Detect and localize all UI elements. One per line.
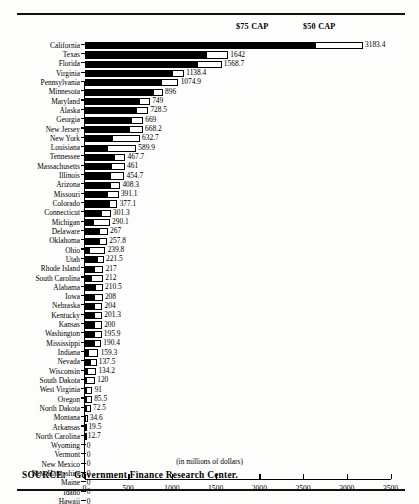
source-text: Government Finance Research Center. <box>74 470 238 480</box>
bar-row: South Carolina212 <box>0 274 419 283</box>
bar-row: Utah221.5 <box>0 255 419 264</box>
bar-row-label-wrap: Alabama <box>0 283 80 292</box>
bar-row: Iowa208 <box>0 292 419 301</box>
bar <box>85 349 99 356</box>
bar-category-label: Washington <box>0 329 80 338</box>
bar-value-label: 221.5 <box>106 255 123 262</box>
y-axis-tick <box>81 444 86 445</box>
bar-category-label: Colorado <box>0 199 80 208</box>
bar <box>85 340 102 347</box>
bar-row: North Dakota72.5 <box>0 404 419 413</box>
bar-row: Michigan290.1 <box>0 218 419 227</box>
bar-row: Kentucky201.3 <box>0 311 419 320</box>
bar <box>85 275 104 282</box>
bar-row-label-wrap: Nevada <box>0 358 80 367</box>
bar-segment-cap75 <box>85 284 96 291</box>
bar-value-label: 239.8 <box>108 246 125 253</box>
bar-category-label: Iowa <box>0 292 80 301</box>
bar-value-label: 377.1 <box>120 200 137 207</box>
bar-row: Virginia1138.4 <box>0 69 419 78</box>
bar-row-label-wrap: Montana <box>0 414 80 423</box>
bar <box>85 284 103 291</box>
bar-value-label: 749 <box>152 97 163 104</box>
bar-row-label-wrap: Missouri <box>0 190 80 199</box>
bar-category-label: Rhode Island <box>0 264 80 273</box>
bar-row-label-wrap: West Virginia <box>0 386 80 395</box>
bar-row-label-wrap: Nebraska <box>0 302 80 311</box>
bar <box>85 117 143 124</box>
bar <box>85 405 91 412</box>
bar-segment-cap75 <box>85 359 91 366</box>
bar-segment-cap75 <box>85 145 109 152</box>
bar-category-label: South Dakota <box>0 376 80 385</box>
bar-row: California3183.4 <box>0 41 419 50</box>
bar-category-label: North Carolina <box>0 432 80 441</box>
bar-segment-cap75 <box>85 126 130 133</box>
bar-row-label-wrap: North Carolina <box>0 432 80 441</box>
bar-category-label: Virginia <box>0 69 80 78</box>
bar-value-label: 632.7 <box>142 134 159 141</box>
bar-value-label: 200 <box>104 321 115 328</box>
bar-row-label-wrap: Illinois <box>0 171 80 180</box>
bar-segment-cap75 <box>85 377 88 384</box>
bar-value-label: 1074.9 <box>181 78 201 85</box>
bar-row-label-wrap: Arizona <box>0 181 80 190</box>
bar-category-label: Utah <box>0 255 80 264</box>
bar <box>85 377 95 384</box>
bar-segment-cap75 <box>85 294 96 301</box>
bar-row: West Virginia91 <box>0 386 419 395</box>
bar-category-label: Oklahoma <box>0 236 80 245</box>
bar-row: Alabama210.5 <box>0 283 419 292</box>
bar-segment-cap75 <box>85 275 93 282</box>
bar-segment-cap75 <box>85 321 95 328</box>
bar-segment-cap75 <box>85 163 113 170</box>
bar-category-label: Arizona <box>0 180 80 189</box>
bar-row-label-wrap: Florida <box>0 60 80 69</box>
bar-segment-cap75 <box>85 238 100 245</box>
bar-segment-cap75 <box>85 331 95 338</box>
bar-row: Alaska728.5 <box>0 106 419 115</box>
bar-row: Colorado377.1 <box>0 199 419 208</box>
bar-value-label: 408.3 <box>122 181 139 188</box>
bar-category-label: Ohio <box>0 246 80 255</box>
bar-row-label-wrap: Maine <box>0 479 80 488</box>
bar <box>85 42 363 49</box>
bar <box>85 135 140 142</box>
bar-segment-cap75 <box>85 415 86 422</box>
bar <box>85 238 108 245</box>
bar-value-label: 267 <box>110 227 121 234</box>
bar-row: Hawaii0 <box>0 497 419 504</box>
bar-row-label-wrap: Washington <box>0 330 80 339</box>
bar-category-label: Maryland <box>0 97 80 106</box>
bar-segment-cap75 <box>85 228 100 235</box>
bar-row: Rhode Island217 <box>0 265 419 274</box>
bar-row-label-wrap: Ohio <box>0 246 80 255</box>
bar-value-label: 454.7 <box>126 172 143 179</box>
bar <box>85 61 222 68</box>
bar <box>85 145 137 152</box>
bar-segment-cap75 <box>85 340 95 347</box>
bar-category-label: Kansas <box>0 320 80 329</box>
bar-row: Maryland749 <box>0 97 419 106</box>
bar-value-label: 204 <box>105 302 116 309</box>
bar-value-label: 208 <box>105 293 116 300</box>
bar-segment-cap75 <box>85 247 90 254</box>
bar <box>85 359 97 366</box>
bar-row-label-wrap: Connecticut <box>0 209 80 218</box>
bar-category-label: California <box>0 41 80 50</box>
bar-row-label-wrap: Maryland <box>0 97 80 106</box>
bar-value-label: 137.5 <box>99 358 116 365</box>
bar-row: Wyoming0 <box>0 441 419 450</box>
bar-row: Oregon85.5 <box>0 395 419 404</box>
bar-category-label: New Jersey <box>0 125 80 134</box>
bar-value-label: 190.4 <box>103 339 120 346</box>
bar-row: Louisiana589.9 <box>0 143 419 152</box>
bar-row-label-wrap: Rhode Island <box>0 265 80 274</box>
bar-category-label: Arkansas <box>0 423 80 432</box>
bar <box>85 98 150 105</box>
bar-category-label: Oregon <box>0 395 80 404</box>
bar-value-label: 201.3 <box>104 311 121 318</box>
bar <box>85 154 126 161</box>
bar <box>85 182 121 189</box>
bar-segment-cap75 <box>85 349 89 356</box>
